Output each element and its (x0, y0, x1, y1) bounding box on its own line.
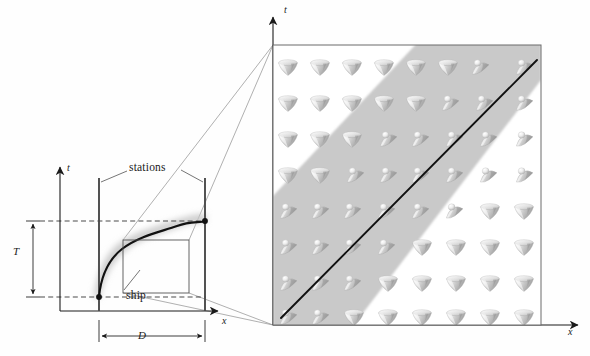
magnifier-leader-lines (123, 45, 273, 325)
ship-label: ship (126, 289, 146, 301)
magnifier-box (123, 240, 189, 293)
stations-leader-left (101, 171, 127, 182)
spacetime-figure (0, 0, 590, 356)
departure-event-dot (96, 294, 102, 300)
left-overview-panel (26, 45, 273, 342)
right-magnified-panel (273, 17, 578, 330)
x-axis-label-left: x (222, 315, 226, 326)
distance-bracket (99, 320, 205, 342)
arrival-event-dot (202, 218, 208, 224)
stations-label: stations (129, 161, 166, 173)
duration-bracket (26, 221, 40, 297)
leader-top-inner (123, 45, 273, 240)
distance-label: D (138, 329, 146, 341)
leader-bottom-outer (189, 293, 273, 325)
t-axis-label-left: t (67, 162, 70, 173)
x-axis-label-right: x (568, 326, 572, 337)
t-axis-label-right: t (284, 4, 287, 15)
stations-leader-right (181, 170, 203, 182)
duration-label: T (13, 245, 19, 257)
ship-leader-line (124, 270, 140, 290)
leader-top-outer (189, 45, 273, 240)
